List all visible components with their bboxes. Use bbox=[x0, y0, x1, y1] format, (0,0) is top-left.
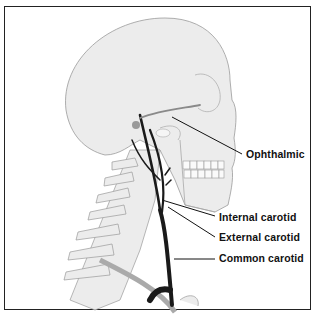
label-internal-carotid: Internal carotid bbox=[219, 211, 296, 223]
label-external-carotid: External carotid bbox=[219, 231, 300, 243]
label-common-carotid: Common carotid bbox=[219, 252, 304, 264]
label-ophthalmic: Ophthalmic bbox=[246, 148, 305, 160]
